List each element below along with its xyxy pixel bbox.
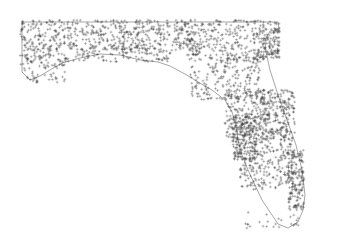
florida-point-map xyxy=(0,0,337,244)
state-outline xyxy=(22,22,305,228)
scatter-points xyxy=(19,19,306,230)
